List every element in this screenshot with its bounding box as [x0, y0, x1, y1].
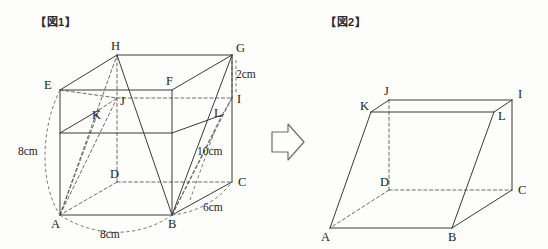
vertex-label-G: G — [236, 41, 245, 55]
guide-bg — [190, 130, 215, 200]
vertex-label-J: J — [120, 94, 125, 108]
fig2-edge-A-K — [330, 112, 371, 228]
arc-height-left — [45, 90, 60, 215]
fig2-edge-B-L — [452, 112, 494, 228]
fig1-dimension-labels: 8cm 2cm 10cm 6cm 8cm — [18, 68, 256, 240]
edge-F-G — [172, 55, 232, 90]
geometry-figures-svg: A B C D E F G H I J K L 8cm 2cm 10cm 6cm… — [0, 0, 548, 249]
vertex-label-K: K — [92, 108, 101, 122]
fig2-solid-edges — [330, 100, 512, 228]
fig2-vertex-label-B: B — [448, 230, 456, 244]
dimension-diagonal-bg: 10cm — [197, 145, 223, 157]
dimension-width-ab: 8cm — [100, 228, 120, 240]
edge-E-J — [60, 90, 117, 98]
figure-1-group: A B C D E F G H I J K L 8cm 2cm 10cm 6cm… — [18, 39, 256, 240]
vertex-label-H: H — [111, 39, 120, 53]
diagonal-A-K — [60, 110, 99, 215]
vertex-label-E: E — [44, 78, 52, 92]
diagram-canvas: 【図1】 【図2】 — [0, 0, 548, 249]
vertex-label-F: F — [166, 74, 173, 88]
edge-E-H — [60, 55, 117, 90]
vertex-label-B: B — [168, 217, 176, 231]
transform-arrow — [272, 124, 304, 160]
fig2-vertex-label-J: J — [384, 84, 389, 98]
fig2-edge-B-C — [452, 190, 512, 228]
fig2-hidden-edges — [330, 100, 512, 228]
diagonal-H-B — [117, 55, 172, 215]
vertex-label-C: C — [238, 175, 246, 189]
vertex-label-I: I — [237, 92, 241, 106]
dimension-height-left: 8cm — [18, 145, 38, 157]
edge-D-A — [60, 182, 117, 215]
dimension-depth-bc: 6cm — [203, 201, 223, 213]
fig2-vertex-label-C: C — [518, 183, 526, 197]
figure-2-caption: 【図2】 — [325, 13, 366, 29]
fig2-vertex-label-I: I — [518, 87, 522, 101]
figure-1-caption: 【図1】 — [35, 13, 76, 29]
figure-2-group: A B C D I J K L — [321, 84, 526, 244]
fig1-solid-edges — [60, 55, 232, 215]
fig1-hidden-edges — [60, 55, 232, 215]
fig2-edge-K-J — [371, 100, 389, 112]
fig2-vertex-label-D: D — [380, 175, 389, 189]
fig2-vertex-labels: A B C D I J K L — [321, 84, 526, 244]
fig2-edge-D-A — [330, 190, 389, 228]
dimension-edge-gi: 2cm — [236, 68, 256, 80]
fig2-vertex-label-L: L — [498, 109, 506, 123]
vertex-label-L: L — [214, 106, 222, 120]
fig2-vertex-label-A: A — [321, 230, 330, 244]
diagonal-B-G — [172, 55, 232, 215]
fig2-vertex-label-K: K — [360, 99, 369, 113]
diagonal-A-J — [60, 98, 117, 215]
edge-B-C — [172, 182, 232, 215]
vertex-label-D: D — [110, 167, 119, 181]
vertex-label-A: A — [51, 217, 60, 231]
